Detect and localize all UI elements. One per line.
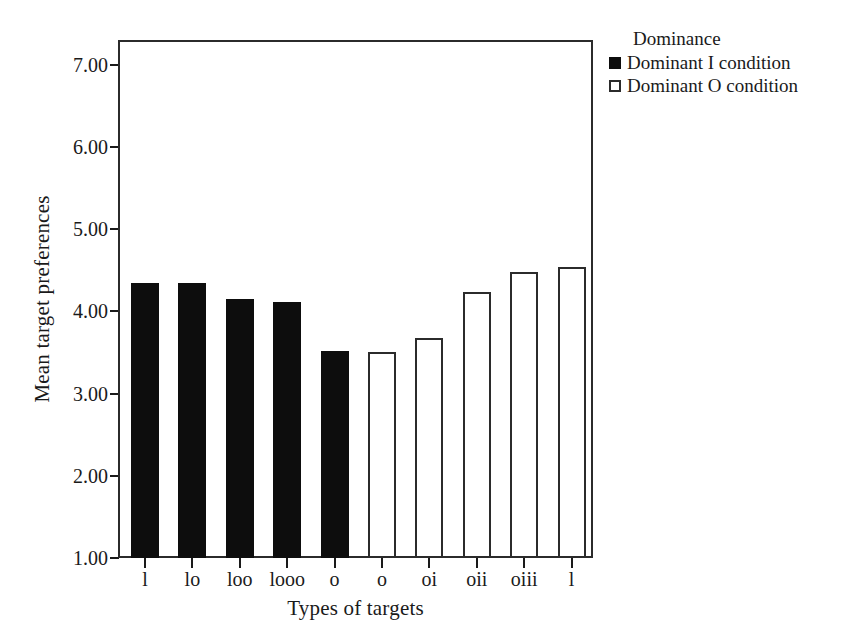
x-tick-mark xyxy=(523,558,525,568)
bar xyxy=(415,338,443,558)
bar xyxy=(368,352,396,558)
x-tick-mark xyxy=(428,558,430,568)
bar xyxy=(463,292,491,558)
legend-item: Dominant I condition xyxy=(609,52,839,73)
y-tick-label: 2.00 xyxy=(46,466,108,486)
y-tick-label: 3.00 xyxy=(46,384,108,404)
x-tick-mark xyxy=(239,558,241,568)
y-tick-label: 5.00 xyxy=(46,219,108,239)
x-tick-mark xyxy=(286,558,288,568)
bar xyxy=(321,351,349,558)
x-tick-mark xyxy=(144,558,146,568)
y-tick-label: 6.00 xyxy=(46,137,108,157)
x-axis-title: Types of targets xyxy=(118,596,593,621)
legend-items: Dominant I conditionDominant O condition xyxy=(609,52,839,96)
x-tick-mark xyxy=(334,558,336,568)
x-tick-mark xyxy=(381,558,383,568)
bar xyxy=(131,283,159,558)
legend-title: Dominance xyxy=(633,28,839,50)
y-tick-label: 7.00 xyxy=(46,55,108,75)
bar xyxy=(510,272,538,558)
x-tick-mark xyxy=(191,558,193,568)
x-tick-mark xyxy=(476,558,478,568)
y-tick-label: 1.00 xyxy=(46,548,108,568)
y-axis-tick-labels: 1.002.003.004.005.006.007.00 xyxy=(46,0,108,644)
bar xyxy=(273,302,301,558)
x-tick-mark xyxy=(571,558,573,568)
legend: Dominance Dominant I conditionDominant O… xyxy=(609,28,839,96)
bars-layer xyxy=(118,40,593,558)
legend-item-label: Dominant I condition xyxy=(627,52,791,73)
y-tick-label: 4.00 xyxy=(46,301,108,321)
open-square-icon xyxy=(609,80,621,92)
x-tick-label: l xyxy=(542,568,602,590)
bar xyxy=(226,299,254,558)
legend-item: Dominant O condition xyxy=(609,75,839,96)
bar xyxy=(558,267,586,558)
legend-item-label: Dominant O condition xyxy=(627,75,798,96)
filled-square-icon xyxy=(609,57,621,69)
bar-chart-figure: Mean target preferences 1.002.003.004.00… xyxy=(0,0,846,644)
bar xyxy=(178,283,206,558)
